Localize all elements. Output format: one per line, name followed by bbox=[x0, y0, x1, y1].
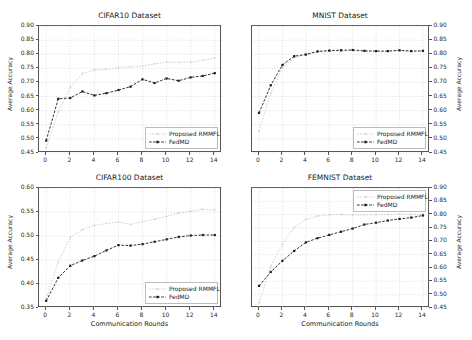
series-line-fedmd bbox=[259, 215, 423, 285]
y-tick-mark bbox=[429, 213, 432, 214]
y-tick-label: 0.85 bbox=[434, 196, 447, 203]
y-tick-mark bbox=[429, 227, 432, 228]
y-tick-mark bbox=[429, 187, 432, 188]
x-axis-label-femnist: Communication Rounds bbox=[251, 320, 429, 328]
data-point-marker bbox=[317, 215, 319, 217]
x-tick-label: 6 bbox=[318, 311, 338, 318]
y-tick-label: 0.50 bbox=[434, 290, 447, 297]
data-point-marker bbox=[410, 217, 412, 219]
data-point-marker bbox=[411, 214, 413, 216]
data-point-marker bbox=[340, 214, 342, 216]
x-tick-label: 10 bbox=[365, 311, 385, 318]
data-point-marker bbox=[305, 219, 307, 221]
x-tick-mark bbox=[351, 307, 352, 310]
y-axis-label-femnist: Average Accuracy bbox=[455, 215, 462, 269]
data-point-marker bbox=[329, 214, 331, 216]
series-line-rmmfl bbox=[259, 214, 423, 303]
x-tick-label: 12 bbox=[389, 311, 409, 318]
chart-panel-femnist: FEMNIST Dataset0.450.500.550.600.650.700… bbox=[0, 0, 472, 340]
data-point-marker bbox=[316, 237, 318, 239]
data-point-marker bbox=[282, 243, 284, 245]
legend-femnist: Proposed RMMFLFedMD bbox=[353, 190, 426, 212]
x-tick-label: 4 bbox=[295, 311, 315, 318]
y-tick-label: 0.55 bbox=[434, 276, 447, 283]
x-tick-label: 8 bbox=[342, 311, 362, 318]
x-tick-mark bbox=[281, 307, 282, 310]
x-tick-mark bbox=[304, 307, 305, 310]
data-point-marker bbox=[363, 223, 365, 225]
y-tick-label: 0.75 bbox=[434, 223, 447, 230]
data-point-marker bbox=[364, 214, 366, 216]
x-tick-mark bbox=[398, 307, 399, 310]
x-tick-mark bbox=[258, 307, 259, 310]
data-point-marker bbox=[270, 266, 272, 268]
legend-swatch-rmmfl bbox=[357, 193, 374, 201]
y-tick-label: 0.65 bbox=[434, 250, 447, 257]
y-tick-mark bbox=[429, 267, 432, 268]
data-point-marker bbox=[293, 250, 295, 252]
data-point-marker bbox=[293, 227, 295, 229]
figure-canvas: CIFAR10 Dataset0.450.500.550.600.650.700… bbox=[0, 0, 472, 340]
y-tick-label: 0.60 bbox=[434, 263, 447, 270]
data-point-marker bbox=[398, 218, 400, 220]
data-point-marker bbox=[375, 214, 377, 216]
data-point-marker bbox=[387, 214, 389, 216]
x-tick-label: 0 bbox=[248, 311, 268, 318]
data-point-marker bbox=[352, 214, 354, 216]
data-point-marker bbox=[328, 234, 330, 236]
data-point-marker bbox=[305, 241, 307, 243]
y-tick-label: 0.80 bbox=[434, 210, 447, 217]
y-tick-label: 0.70 bbox=[434, 236, 447, 243]
data-point-marker bbox=[258, 285, 260, 287]
x-tick-mark bbox=[421, 307, 422, 310]
legend-label: Proposed RMMFL bbox=[377, 193, 428, 201]
x-tick-mark bbox=[375, 307, 376, 310]
legend-swatch-fedmd bbox=[357, 201, 374, 209]
y-tick-mark bbox=[429, 200, 432, 201]
data-point-marker bbox=[375, 222, 377, 224]
y-tick-label: 0.90 bbox=[434, 183, 447, 190]
data-point-marker bbox=[340, 231, 342, 233]
y-tick-mark bbox=[429, 280, 432, 281]
y-tick-mark bbox=[429, 253, 432, 254]
data-point-marker bbox=[281, 260, 283, 262]
legend-item-rmmfl[interactable]: Proposed RMMFL bbox=[357, 193, 422, 201]
y-tick-mark bbox=[429, 240, 432, 241]
data-point-marker bbox=[258, 302, 260, 304]
data-point-marker bbox=[352, 227, 354, 229]
data-point-marker bbox=[399, 213, 401, 215]
y-tick-mark bbox=[429, 293, 432, 294]
x-tick-mark bbox=[328, 307, 329, 310]
data-point-marker bbox=[387, 219, 389, 221]
legend-item-fedmd[interactable]: FedMD bbox=[357, 201, 422, 209]
x-tick-label: 2 bbox=[271, 311, 291, 318]
panel-title-femnist: FEMNIST Dataset bbox=[251, 173, 429, 182]
y-tick-label: 0.45 bbox=[434, 303, 447, 310]
legend-label: FedMD bbox=[377, 201, 397, 209]
data-point-marker bbox=[422, 214, 424, 216]
x-tick-label: 14 bbox=[412, 311, 432, 318]
y-tick-mark bbox=[429, 307, 432, 308]
data-point-marker bbox=[270, 271, 272, 273]
